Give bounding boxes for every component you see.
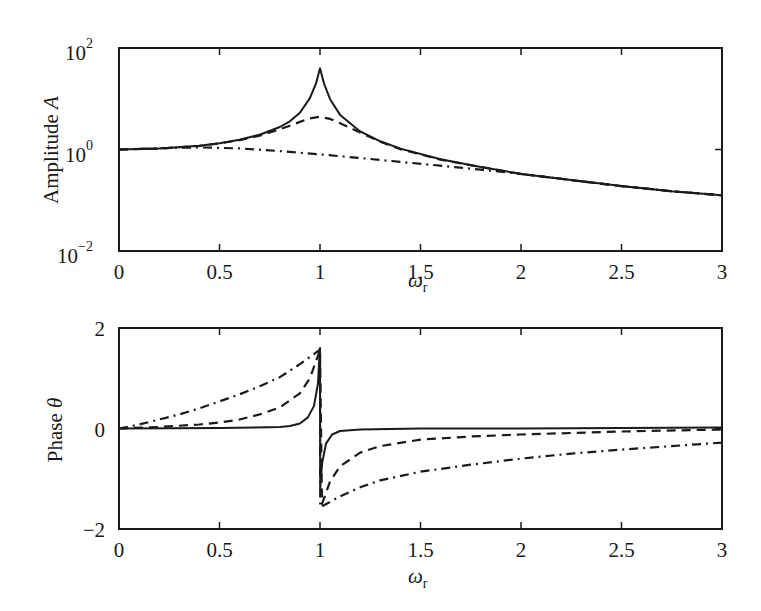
amplitude-y-ticks: 10210010−2 [57, 36, 722, 268]
y-tick-label: 100 [65, 138, 93, 167]
phase-x-ticks: 00.511.522.53 [114, 328, 728, 562]
phase-y-axis-title: Phase θ [43, 398, 67, 463]
amplitude-plot-frame [119, 48, 722, 251]
x-tick-label: 2 [516, 260, 527, 284]
phase-chart: 00.511.522.53 20−2 ωr Phase θ [43, 317, 727, 591]
x-tick-label: 2.5 [608, 260, 634, 284]
amplitude-x-ticks: 00.511.522.53 [114, 48, 728, 284]
y-tick-label: −2 [83, 518, 105, 542]
x-tick-label: 2 [516, 538, 527, 562]
series-line-solid [119, 348, 722, 489]
x-tick-label: 0 [114, 538, 125, 562]
amplitude-series [119, 68, 722, 195]
y-tick-label: 2 [95, 317, 106, 341]
x-tick-label: 1 [315, 538, 326, 562]
series-line-solid [119, 68, 722, 195]
x-tick-label: 0.5 [206, 538, 232, 562]
series-line-dashed [119, 117, 722, 196]
x-tick-label: 0 [114, 260, 125, 284]
phase-series [119, 348, 722, 507]
x-tick-label: 3 [717, 260, 728, 284]
y-tick-label: 0 [95, 418, 106, 442]
x-tick-label: 1 [315, 260, 326, 284]
phase-x-axis-title: ωr [408, 564, 428, 591]
x-tick-label: 1.5 [407, 538, 433, 562]
amplitude-y-axis-title: Amplitude A [39, 96, 63, 204]
x-tick-label: 2.5 [608, 538, 634, 562]
series-line-dashed [119, 350, 722, 504]
y-tick-label: 102 [65, 36, 93, 65]
amplitude-chart: 00.511.522.53 10210010−2 ωr Amplitude A [39, 36, 727, 295]
y-tick-label: 10−2 [57, 239, 93, 268]
x-tick-label: 3 [717, 538, 728, 562]
figure: 00.511.522.53 10210010−2 ωr Amplitude A … [0, 0, 761, 611]
x-tick-label: 0.5 [206, 260, 232, 284]
